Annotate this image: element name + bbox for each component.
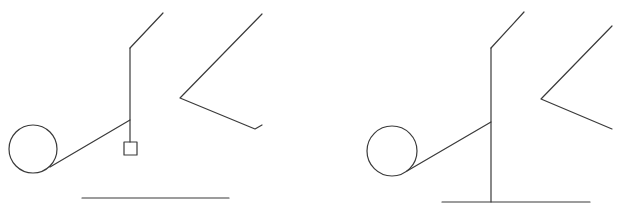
left-circle [9,125,57,173]
right-angle-shape [541,26,612,129]
left-angle-shape [180,14,262,129]
diagram-canvas [0,0,618,215]
right-circle [367,126,417,176]
right-top-diagonal [491,12,524,48]
left-top-diagonal [130,13,163,48]
left-figure [9,13,262,198]
left-tangent-line [50,120,130,167]
left-small-square [124,142,137,155]
right-figure [367,12,612,202]
right-tangent-line [407,122,491,171]
